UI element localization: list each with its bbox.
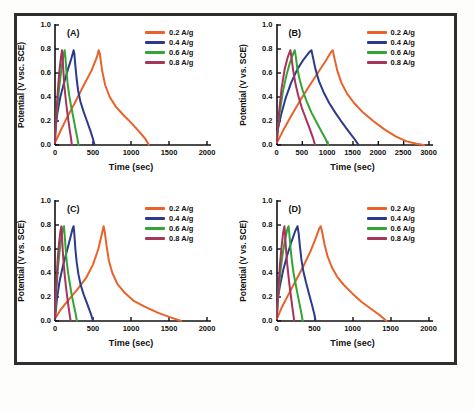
x-tick-label: 1500 [154, 324, 184, 333]
y-tick-label: 0.6 [253, 244, 273, 253]
legend-item: 0.8 A/g [367, 58, 415, 67]
y-tick-label: 1.0 [31, 20, 51, 29]
legend-color-swatch [145, 41, 165, 43]
legend: 0.2 A/g0.4 A/g0.6 A/g0.8 A/g [145, 204, 193, 243]
legend-color-swatch [145, 227, 165, 229]
legend-item: 0.4 A/g [367, 214, 415, 223]
panel-grid: 0.00.20.40.60.81.00500100015002000Time (… [14, 13, 457, 365]
legend-item: 0.6 A/g [145, 48, 193, 57]
legend-label: 0.8 A/g [169, 234, 193, 243]
legend-item: 0.2 A/g [367, 204, 415, 213]
y-axis-label-text: Potential (V vs. SCE) [238, 44, 248, 126]
legend-label: 0.2 A/g [169, 204, 193, 213]
legend-color-swatch [367, 61, 387, 63]
y-tick-label: 0.2 [31, 116, 51, 125]
legend-color-swatch [367, 227, 387, 229]
y-axis-label: Potential (V vs. SCE) [236, 201, 250, 321]
y-tick-label: 0.6 [253, 68, 273, 77]
y-tick-label: 0.4 [31, 268, 51, 277]
y-tick-label: 0.8 [31, 44, 51, 53]
legend-color-swatch [367, 207, 387, 209]
legend-color-swatch [367, 217, 387, 219]
y-tick-label: 0.4 [31, 92, 51, 101]
legend-item: 0.8 A/g [145, 58, 193, 67]
panel-d-plot: 0.00.20.40.60.81.00500100015002000Time (… [236, 189, 458, 365]
x-tick-label: 3000 [414, 148, 444, 157]
legend-color-swatch [145, 51, 165, 53]
x-tick-label: 0 [40, 148, 70, 157]
panel-b: 0.00.20.40.60.81.00500100015002000250030… [236, 13, 458, 189]
x-tick-label: 1500 [376, 324, 406, 333]
legend-label: 0.4 A/g [169, 214, 193, 223]
x-axis-label: Time (sec) [277, 162, 429, 172]
x-tick-label: 2000 [414, 324, 444, 333]
legend-label: 0.8 A/g [391, 58, 415, 67]
x-axis-label: Time (sec) [55, 162, 207, 172]
y-tick-label: 0.2 [31, 292, 51, 301]
legend-color-swatch [145, 61, 165, 63]
panel-tag: (D) [289, 204, 302, 214]
legend-color-swatch [145, 217, 165, 219]
y-tick-label: 0.6 [31, 68, 51, 77]
legend: 0.2 A/g0.4 A/g0.6 A/g0.8 A/g [367, 204, 415, 243]
legend-color-swatch [367, 31, 387, 33]
y-axis-label-text: Potential (V vs. SCE) [16, 220, 26, 302]
x-axis-label: Time (sec) [55, 338, 207, 348]
y-tick-label: 0.8 [253, 44, 273, 53]
x-tick-label: 1500 [154, 148, 184, 157]
panel-b-plot: 0.00.20.40.60.81.00500100015002000250030… [236, 13, 458, 189]
legend-item: 0.6 A/g [367, 224, 415, 233]
legend-label: 0.4 A/g [169, 38, 193, 47]
panel-tag: (C) [67, 204, 80, 214]
legend-label: 0.2 A/g [391, 204, 415, 213]
panel-c-plot: 0.00.20.40.60.81.00500100015002000Time (… [14, 189, 236, 365]
y-tick-label: 0.2 [253, 116, 273, 125]
y-tick-label: 0.4 [253, 92, 273, 101]
x-tick-label: 500 [300, 324, 330, 333]
x-tick-label: 1000 [338, 324, 368, 333]
legend-item: 0.8 A/g [367, 234, 415, 243]
x-tick-label: 2000 [192, 148, 222, 157]
panel-a: 0.00.20.40.60.81.00500100015002000Time (… [14, 13, 236, 189]
y-axis-label: Potential (V vs. SCE) [236, 25, 250, 145]
legend-label: 0.6 A/g [391, 224, 415, 233]
legend-color-swatch [367, 237, 387, 239]
y-tick-label: 1.0 [31, 196, 51, 205]
legend-label: 0.2 A/g [391, 28, 415, 37]
x-tick-label: 0 [262, 324, 292, 333]
legend-label: 0.2 A/g [169, 28, 193, 37]
x-tick-label: 500 [78, 148, 108, 157]
legend-color-swatch [367, 41, 387, 43]
legend-item: 0.2 A/g [145, 204, 193, 213]
x-tick-label: 2000 [192, 324, 222, 333]
x-tick-label: 500 [78, 324, 108, 333]
y-tick-label: 0.6 [31, 244, 51, 253]
x-tick-label: 1000 [116, 148, 146, 157]
legend-item: 0.4 A/g [367, 38, 415, 47]
legend-item: 0.4 A/g [145, 38, 193, 47]
legend-label: 0.6 A/g [169, 48, 193, 57]
x-axis-label: Time (sec) [277, 338, 429, 348]
legend-label: 0.8 A/g [169, 58, 193, 67]
y-tick-label: 0.2 [253, 292, 273, 301]
legend-item: 0.4 A/g [145, 214, 193, 223]
curve-06 [55, 226, 77, 321]
legend-label: 0.6 A/g [391, 48, 415, 57]
legend-item: 0.6 A/g [145, 224, 193, 233]
figure-root: 0.00.20.40.60.81.00500100015002000Time (… [0, 0, 475, 411]
legend-color-swatch [145, 237, 165, 239]
panel-c: 0.00.20.40.60.81.00500100015002000Time (… [14, 189, 236, 365]
legend-color-swatch [145, 207, 165, 209]
legend-label: 0.4 A/g [391, 38, 415, 47]
legend-color-swatch [367, 51, 387, 53]
y-axis-label-text: Potential (V vs. SCE) [238, 220, 248, 302]
panel-a-plot: 0.00.20.40.60.81.00500100015002000Time (… [14, 13, 236, 189]
y-axis-label: Potential (V vsc. SCE) [14, 25, 28, 145]
y-axis-label: Potential (V vs. SCE) [14, 201, 28, 321]
legend-label: 0.8 A/g [391, 234, 415, 243]
panel-d: 0.00.20.40.60.81.00500100015002000Time (… [236, 189, 458, 365]
panel-tag: (A) [67, 28, 80, 38]
legend: 0.2 A/g0.4 A/g0.6 A/g0.8 A/g [367, 28, 415, 67]
legend-item: 0.6 A/g [367, 48, 415, 57]
legend-item: 0.2 A/g [145, 28, 193, 37]
